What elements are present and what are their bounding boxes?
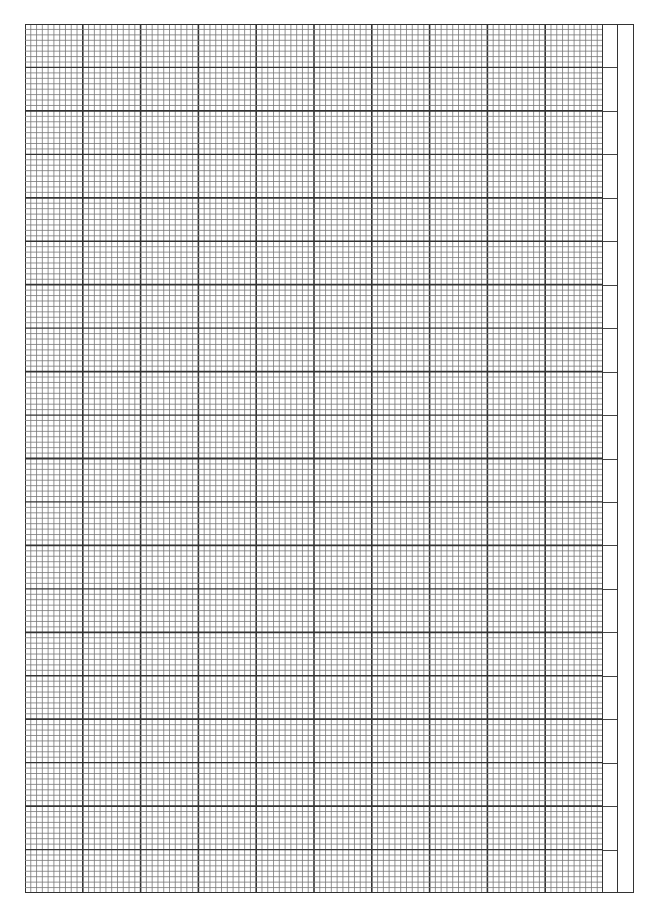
strip-tick xyxy=(603,806,617,807)
strip-tick xyxy=(603,241,617,242)
strip-tick xyxy=(603,676,617,677)
side-margin-outer-strip xyxy=(618,24,634,893)
strip-tick xyxy=(603,111,617,112)
strip-tick xyxy=(603,372,617,373)
strip-tick xyxy=(603,763,617,764)
strip-tick xyxy=(603,328,617,329)
strip-tick xyxy=(603,285,617,286)
strip-tick xyxy=(603,545,617,546)
strip-tick xyxy=(603,459,617,460)
strip-tick xyxy=(603,502,617,503)
graph-grid xyxy=(25,24,603,893)
strip-tick xyxy=(603,154,617,155)
strip-tick xyxy=(603,415,617,416)
side-margin-strip xyxy=(602,24,618,893)
strip-tick xyxy=(603,589,617,590)
strip-tick xyxy=(603,632,617,633)
strip-tick xyxy=(603,719,617,720)
strip-tick xyxy=(603,198,617,199)
strip-tick xyxy=(603,850,617,851)
strip-tick xyxy=(603,67,617,68)
